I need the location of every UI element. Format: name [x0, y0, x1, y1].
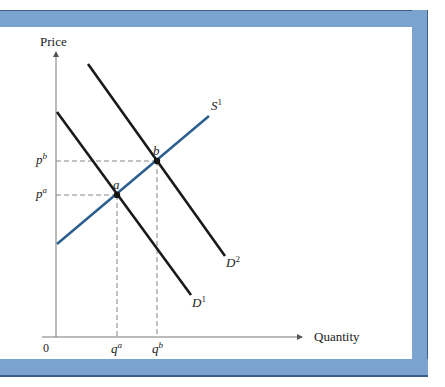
- demand-curve-d1-label: D1: [192, 295, 206, 311]
- price-a-label: pa: [36, 186, 47, 202]
- supply-curve-s1: [57, 116, 209, 244]
- quantity-b-label: qb: [152, 341, 163, 357]
- origin-label: 0: [43, 341, 49, 356]
- quantity-a-label: qa: [111, 341, 122, 357]
- point-b-label: b: [153, 143, 160, 159]
- supply-curve-label: S1: [211, 98, 222, 114]
- point-a-label: a: [113, 177, 120, 193]
- y-axis-label: Price: [40, 34, 67, 50]
- x-axis-label: Quantity: [314, 329, 360, 345]
- price-b-label: pb: [36, 152, 47, 168]
- supply-demand-plot: [0, 0, 445, 387]
- demand-curve-d1: [57, 112, 191, 295]
- demand-curve-d2-label: D2: [226, 255, 240, 271]
